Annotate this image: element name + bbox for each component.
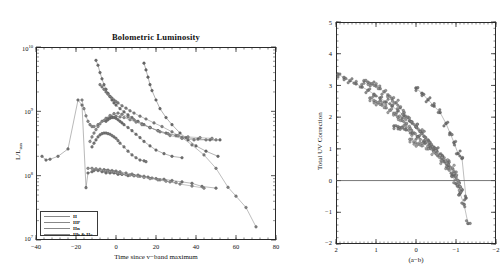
legend-swatch-iin — [44, 228, 70, 229]
legend-swatch-iib-iic — [44, 234, 70, 235]
legend-label-iip: IIP — [73, 220, 80, 225]
legend-label-iin: IIn — [73, 226, 80, 231]
left-panel: Bolometric Luminosity L/Lsun 1010 109 10… — [0, 0, 290, 272]
legend-swatch-iip — [44, 222, 70, 223]
legend-item-iib-iic[interactable]: IIb & IIc — [44, 232, 92, 237]
right-panel: Total UV Correction 5 4 3 2 1 0 −1 −2 2 … — [290, 0, 504, 272]
legend-swatch-ii — [44, 216, 70, 217]
legend-label-ii: II — [73, 214, 77, 219]
legend-item-iin[interactable]: IIn — [44, 226, 80, 231]
legend-label-iib-iic: IIb & IIc — [73, 232, 92, 237]
legend-item-iip[interactable]: IIP — [44, 220, 80, 225]
left-legend: II IIP IIn IIb & IIc — [40, 211, 98, 236]
legend-item-ii[interactable]: II — [44, 214, 77, 219]
right-plot-svg — [290, 0, 504, 272]
figure-canvas: Bolometric Luminosity L/Lsun 1010 109 10… — [0, 0, 504, 272]
